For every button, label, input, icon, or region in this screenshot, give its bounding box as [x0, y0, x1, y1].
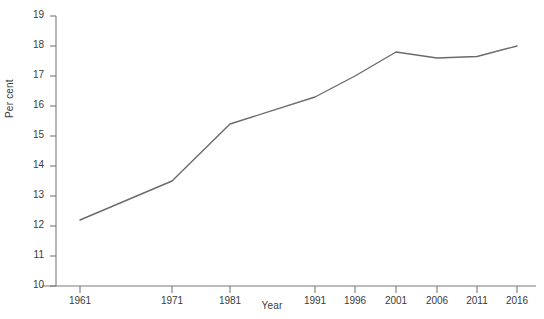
y-axis-tick-label: 15	[18, 129, 44, 140]
line-chart: Per cent Year 10111213141516171819 19611…	[0, 0, 544, 319]
x-axis-ticks	[80, 286, 517, 293]
y-axis-tick-label: 11	[18, 249, 44, 260]
plot-area	[0, 0, 544, 319]
y-axis-tick-label: 13	[18, 189, 44, 200]
x-axis-tick-label: 1971	[152, 295, 192, 306]
data-series-line	[80, 46, 517, 220]
x-axis-tick-label: 2006	[417, 295, 457, 306]
x-axis-tick-label: 1996	[335, 295, 375, 306]
y-axis-tick-label: 14	[18, 159, 44, 170]
y-axis-tick-label: 18	[18, 39, 44, 50]
x-axis-tick-label: 2016	[497, 295, 537, 306]
x-axis-tick-label: 1991	[295, 295, 335, 306]
y-axis-ticks	[50, 16, 56, 286]
x-axis-tick-label: 1981	[210, 295, 250, 306]
y-axis-tick-label: 12	[18, 219, 44, 230]
x-axis-tick-label: 2001	[376, 295, 416, 306]
y-axis-tick-label: 19	[18, 9, 44, 20]
y-axis-tick-label: 17	[18, 69, 44, 80]
y-axis-tick-label: 16	[18, 99, 44, 110]
y-axis-title: Per cent	[4, 38, 15, 118]
x-axis-tick-label: 2011	[457, 295, 497, 306]
y-axis-tick-label: 10	[18, 279, 44, 290]
x-axis-tick-label: 1961	[60, 295, 100, 306]
